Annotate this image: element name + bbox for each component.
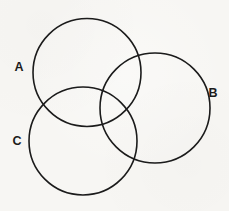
- set-circle-b: [100, 53, 210, 163]
- venn-diagram-figure: A B C: [0, 0, 229, 211]
- set-circle-c: [29, 87, 137, 195]
- set-circle-a: [33, 19, 141, 127]
- set-label-b: B: [209, 87, 218, 100]
- venn-circles-svg: [0, 0, 229, 211]
- set-label-a: A: [15, 61, 24, 74]
- set-label-c: C: [13, 135, 22, 148]
